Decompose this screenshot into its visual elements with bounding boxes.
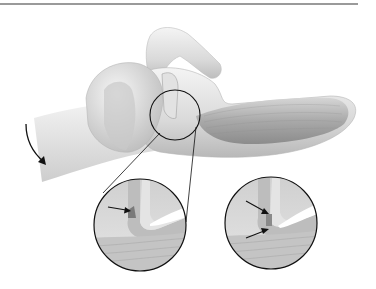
inset-left	[90, 175, 190, 275]
inset-right	[222, 175, 322, 275]
glenoid	[162, 73, 178, 119]
shoulder-illustration	[0, 0, 376, 289]
